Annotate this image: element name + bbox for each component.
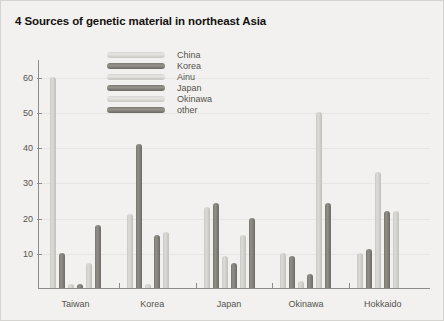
y-axis-tick: 10 [37,254,42,255]
bar[interactable] [77,284,83,288]
y-axis-tick-label: 20 [23,214,33,224]
bar[interactable] [154,235,160,288]
bar[interactable] [357,253,363,288]
x-axis-group-label: Korea [140,299,164,309]
x-axis-group-separator [196,283,197,289]
y-axis-tick: 40 [37,148,42,149]
bar[interactable] [240,235,246,288]
x-axis-group-label: Taiwan [61,299,89,309]
y-axis-tick: 50 [37,113,42,114]
bar[interactable] [316,112,322,288]
bar[interactable] [136,144,142,288]
y-axis-tick-label: 60 [23,73,33,83]
bar[interactable] [325,203,331,288]
y-axis-tick-label: 40 [23,143,33,153]
bar[interactable] [375,172,381,288]
legend-item-label: China [177,50,201,60]
y-axis-tick: 60 [37,78,42,79]
bar-group: Taiwan [50,77,101,288]
bar[interactable] [384,211,390,289]
bar[interactable] [213,203,219,288]
bar-group: Japan [204,203,255,288]
x-axis-group-label: Hokkaido [364,299,402,309]
y-axis-tick-label: 30 [23,178,33,188]
x-axis-group-separator [349,283,350,289]
legend-item[interactable]: China [107,49,212,60]
bar[interactable] [127,214,133,288]
bar[interactable] [222,256,228,288]
plot-area: 102030405060TaiwanKoreaJapanOkinawaHokka… [38,60,430,289]
bar[interactable] [145,284,151,288]
y-axis-tick-label: 50 [23,108,33,118]
y-axis-tick-label: 10 [23,249,33,259]
bar-group: Korea [127,144,178,288]
bar[interactable] [50,77,56,288]
x-axis-group-separator [119,283,120,289]
bar[interactable] [393,211,399,289]
chart-figure: 4 Sources of genetic material in northea… [0,0,444,321]
bar[interactable] [59,253,65,288]
bar-group: Hokkaido [357,172,408,288]
bar-group: Okinawa [280,112,331,288]
bar[interactable] [163,232,169,288]
bar[interactable] [366,249,372,288]
bar[interactable] [289,256,295,288]
x-axis-line [38,288,430,289]
bar[interactable] [204,207,210,288]
bar[interactable] [249,218,255,288]
bar[interactable] [298,281,304,288]
bar[interactable] [280,253,286,288]
y-axis-tick: 20 [37,219,42,220]
bar[interactable] [95,225,101,288]
x-axis-group-label: Okinawa [288,299,323,309]
bar[interactable] [86,263,92,288]
bar[interactable] [307,274,313,288]
bar[interactable] [68,284,74,288]
y-axis-tick: 30 [37,183,42,184]
bar[interactable] [231,263,237,288]
chart-title: 4 Sources of genetic material in northea… [15,15,266,27]
legend-swatch-icon [107,52,165,58]
x-axis-group-separator [272,283,273,289]
x-axis-group-label: Japan [217,299,242,309]
